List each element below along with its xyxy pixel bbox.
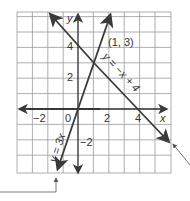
tick-y-4: 4 xyxy=(67,40,73,52)
point-label: (1, 3) xyxy=(108,36,134,48)
y-axis-label: y xyxy=(66,12,74,24)
grid xyxy=(17,12,171,173)
tick-x-4: 4 xyxy=(135,112,141,124)
line-label-y-neg-x-4: y = −x + 4 xyxy=(100,49,143,93)
line-y-neg-x-plus-4 xyxy=(51,15,94,63)
tick-origin: 0 xyxy=(65,112,71,124)
graph: −2 0 2 4 x y 4 2 −2 (1, 3) y = 3x y = −x… xyxy=(0,0,190,201)
x-axis-label: x xyxy=(159,112,166,124)
tick-x-neg2: −2 xyxy=(33,112,46,124)
tick-y-2: 2 xyxy=(67,71,73,83)
tick-x-2: 2 xyxy=(104,112,110,124)
tick-y-neg2: −2 xyxy=(80,136,93,148)
callouts xyxy=(0,144,190,192)
